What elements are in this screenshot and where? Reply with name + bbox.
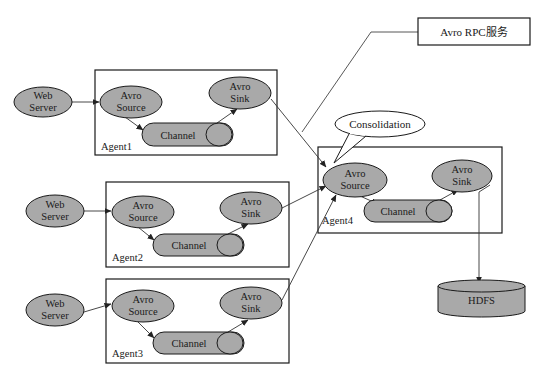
svg-text:Avro: Avro bbox=[345, 168, 366, 179]
svg-text:Channel: Channel bbox=[172, 338, 207, 349]
avro-sink-node-agent1: Avro Sink bbox=[209, 77, 271, 109]
channel-node-agent1: Channel bbox=[142, 123, 233, 146]
agent2-label: Agent2 bbox=[112, 252, 143, 263]
avro-sink-node-agent4: Avro Sink bbox=[432, 160, 492, 192]
avro-rpc-callout: Avro RPC服务 bbox=[302, 18, 530, 132]
svg-text:Source: Source bbox=[128, 306, 157, 317]
consolidation-callout: Consolidation bbox=[334, 111, 425, 163]
edge-source1-channel1 bbox=[125, 117, 143, 130]
edge-channel1-sink1 bbox=[217, 109, 237, 123]
svg-text:Avro: Avro bbox=[241, 291, 262, 302]
consolidation-label: Consolidation bbox=[349, 118, 411, 130]
svg-text:Avro: Avro bbox=[133, 200, 154, 211]
svg-text:Sink: Sink bbox=[241, 303, 261, 314]
svg-text:Sink: Sink bbox=[241, 208, 261, 219]
svg-text:Source: Source bbox=[340, 180, 369, 191]
agent4-label: Agent4 bbox=[322, 215, 354, 226]
edge-sink3-source4 bbox=[282, 195, 336, 300]
svg-text:Sink: Sink bbox=[452, 176, 472, 187]
edge-channel2-sink2 bbox=[228, 224, 248, 234]
edge-channel3-sink3 bbox=[228, 320, 248, 332]
svg-text:Avro: Avro bbox=[121, 90, 142, 101]
svg-text:Source: Source bbox=[128, 212, 157, 223]
edge-source2-channel2 bbox=[138, 227, 154, 240]
avro-source-node-agent3: Avro Source bbox=[112, 290, 174, 322]
svg-text:Channel: Channel bbox=[161, 130, 196, 141]
svg-text:Avro: Avro bbox=[241, 196, 262, 207]
svg-text:Web: Web bbox=[34, 90, 53, 101]
avro-source-node-agent1: Avro Source bbox=[100, 86, 162, 118]
web-server-node-2: Web Server bbox=[26, 195, 84, 227]
svg-text:Web: Web bbox=[46, 298, 65, 309]
svg-text:Avro: Avro bbox=[452, 164, 473, 175]
channel-node-agent2: Channel bbox=[153, 234, 244, 256]
svg-text:Server: Server bbox=[29, 102, 57, 113]
svg-text:Source: Source bbox=[116, 102, 145, 113]
channel-node-agent4: Channel bbox=[364, 200, 452, 222]
web-server-node-1: Web Server bbox=[14, 87, 72, 117]
avro-sink-node-agent3: Avro Sink bbox=[220, 287, 282, 319]
flume-topology-diagram: Agent1 Agent2 Agent3 Agent4 Avro RPC服务 C… bbox=[0, 0, 545, 381]
avro-source-node-agent4: Avro Source bbox=[323, 163, 387, 197]
avro-rpc-label: Avro RPC服务 bbox=[440, 26, 507, 38]
svg-text:Web: Web bbox=[46, 199, 65, 210]
web-server-node-3: Web Server bbox=[26, 294, 84, 326]
svg-text:Server: Server bbox=[41, 310, 69, 321]
agent3-label: Agent3 bbox=[112, 348, 143, 359]
edge-webserver3-source3 bbox=[84, 304, 111, 312]
svg-text:Channel: Channel bbox=[381, 206, 416, 217]
channel-node-agent3: Channel bbox=[153, 332, 244, 354]
edge-sink4-hdfs bbox=[479, 185, 490, 283]
svg-text:Avro: Avro bbox=[133, 294, 154, 305]
hdfs-storage-node: HDFS bbox=[438, 280, 525, 317]
hdfs-label: HDFS bbox=[468, 295, 495, 306]
svg-text:Server: Server bbox=[41, 211, 69, 222]
svg-text:Sink: Sink bbox=[230, 93, 250, 104]
edge-source3-channel3 bbox=[138, 322, 154, 338]
svg-text:Channel: Channel bbox=[172, 240, 207, 251]
avro-sink-node-agent2: Avro Sink bbox=[220, 192, 282, 224]
avro-source-node-agent2: Avro Source bbox=[112, 196, 174, 228]
agent1-label: Agent1 bbox=[101, 141, 132, 152]
svg-text:Avro: Avro bbox=[230, 81, 251, 92]
